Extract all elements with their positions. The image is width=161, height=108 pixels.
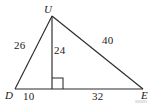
measure-label-base-right: 32 [92,91,103,102]
vertex-label-u: U [44,4,52,15]
segment-right-ue [52,16,143,89]
measure-label-left-side: 26 [14,40,25,51]
vertex-label-d: D [5,90,13,101]
right-angle-marker [52,78,63,89]
geometry-figure: U D E 26 24 40 10 32 [0,0,161,108]
measure-label-altitude: 24 [54,45,65,56]
segment-left-du [15,16,52,89]
scan-artifact [135,100,147,103]
measure-label-right-side: 40 [102,35,113,46]
measure-label-base-left: 10 [23,91,34,102]
